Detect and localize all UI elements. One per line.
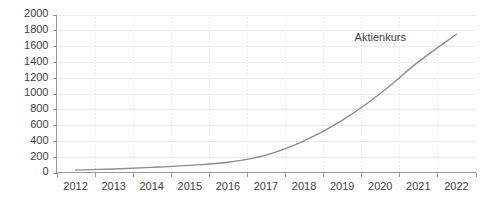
x-axis-tick-label: 2017 bbox=[254, 180, 278, 192]
x-axis-tick-label: 2021 bbox=[406, 180, 430, 192]
line-chart-figure: 0200400600800100012001400160018002000 20… bbox=[0, 0, 493, 204]
x-axis-tick-labels: 2012201320142015201620172018201920202021… bbox=[63, 180, 468, 192]
x-axis-tick-label: 2018 bbox=[292, 180, 316, 192]
y-axis-tick-label: 400 bbox=[30, 134, 48, 146]
y-axis-tick-label: 1200 bbox=[24, 71, 48, 83]
x-axis-tick-label: 2012 bbox=[63, 180, 87, 192]
x-axis-tick-label: 2020 bbox=[368, 180, 392, 192]
y-axis-tick-label: 1600 bbox=[24, 39, 48, 51]
x-axis-tick-label: 2016 bbox=[216, 180, 240, 192]
y-axis-tick-label: 1000 bbox=[24, 86, 48, 98]
y-axis-tick-label: 2000 bbox=[24, 7, 48, 19]
y-axis-tick-label: 1400 bbox=[24, 55, 48, 67]
x-axis-tick-label: 2013 bbox=[101, 180, 125, 192]
series-inline-label: Aktienkurs bbox=[355, 31, 407, 43]
y-axis-tick-label: 1800 bbox=[24, 23, 48, 35]
x-axis-tick-label: 2019 bbox=[330, 180, 354, 192]
x-axis-tick-label: 2015 bbox=[178, 180, 202, 192]
y-axis-tick-label: 800 bbox=[30, 102, 48, 114]
y-axis-tick-label: 200 bbox=[30, 150, 48, 162]
series-label-aktienkurs: Aktienkurs bbox=[355, 31, 407, 43]
x-axis-tick-label: 2022 bbox=[444, 180, 468, 192]
chart-canvas: 0200400600800100012001400160018002000 20… bbox=[0, 0, 493, 204]
y-axis-tick-label: 0 bbox=[42, 165, 48, 177]
x-axis-tick-label: 2014 bbox=[139, 180, 163, 192]
y-axis-tick-label: 600 bbox=[30, 118, 48, 130]
